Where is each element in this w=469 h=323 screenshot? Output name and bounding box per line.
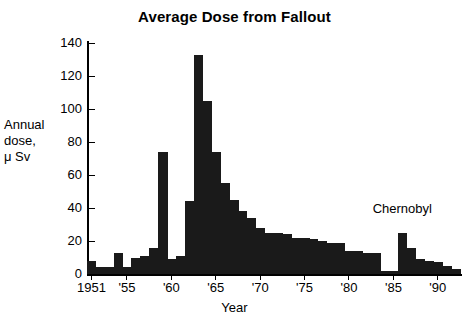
y-axis-tick-label-wrap: 100 — [40, 102, 82, 115]
y-axis-tick-label: 0 — [44, 267, 82, 280]
plot-area — [87, 43, 458, 274]
y-axis-tick-label-wrap: 20 — [40, 234, 82, 247]
y-axis-tick-label: 120 — [44, 69, 82, 82]
x-axis-tick-label: '55 — [118, 281, 135, 295]
y-axis-tick-label: 100 — [44, 102, 82, 115]
chart-figure: Average Dose from Fallout Annual dose, μ… — [0, 0, 469, 323]
y-axis-tick-label: 40 — [44, 201, 82, 214]
chart-annotation-label: Chernobyl — [373, 201, 432, 216]
x-axis-tick-label: '85 — [385, 281, 402, 295]
y-axis-tick-label-wrap: 140 — [40, 36, 82, 49]
bar-series — [87, 43, 458, 274]
y-axis-tick-label: 20 — [44, 234, 82, 247]
y-axis-tick-label-wrap: 80 — [40, 135, 82, 148]
y-axis-tick-label-wrap: 120 — [40, 69, 82, 82]
y-axis-tick-label-wrap: 40 — [40, 201, 82, 214]
y-axis-tick-label: 80 — [44, 135, 82, 148]
x-axis-line — [87, 274, 462, 276]
y-axis-tick-label-wrap: 0 — [40, 267, 82, 280]
x-axis-tick-label: '90 — [429, 281, 446, 295]
y-axis-tick-label: 140 — [44, 36, 82, 49]
x-axis-tick-label: '65 — [207, 281, 224, 295]
x-axis-tick-label: '70 — [252, 281, 269, 295]
x-axis-title: Year — [0, 300, 469, 315]
bar — [451, 269, 460, 274]
x-axis-tick-label: '60 — [163, 281, 180, 295]
y-axis-tick-label-wrap: 60 — [40, 168, 82, 181]
x-axis-tick-label: '75 — [296, 281, 313, 295]
chart-title: Average Dose from Fallout — [0, 8, 469, 25]
x-axis-tick-label: 1951 — [77, 281, 106, 295]
y-axis-tick-label: 60 — [44, 168, 82, 181]
x-axis-tick-label: '80 — [341, 281, 358, 295]
bar — [158, 152, 167, 274]
